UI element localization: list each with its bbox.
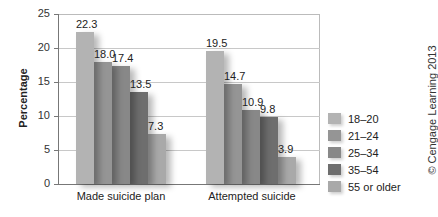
y-tick-label: 25	[30, 7, 50, 19]
value-label: 3.9	[278, 143, 308, 155]
value-label: 13.5	[130, 78, 160, 90]
bar	[260, 117, 278, 184]
value-label: 7.3	[148, 120, 178, 132]
legend-swatch	[328, 181, 341, 192]
plot-frame-top	[58, 14, 320, 15]
legend-label: 21–24	[348, 130, 379, 142]
y-tick-label: 0	[30, 177, 50, 189]
bar	[94, 62, 112, 184]
legend-item: 18–20	[328, 110, 401, 127]
bar	[278, 157, 296, 184]
legend-item: 35–54	[328, 161, 401, 178]
category-label-attempted: Attempted suicide	[192, 190, 312, 202]
bar	[224, 84, 242, 184]
bar	[206, 51, 224, 184]
y-tick-label: 15	[30, 75, 50, 87]
value-label: 19.5	[206, 37, 236, 49]
copyright-credit: © Cengage Learning 2013	[426, 40, 438, 180]
legend-item: 55 or older	[328, 178, 401, 195]
value-label: 22.3	[76, 18, 106, 30]
legend-item: 25–34	[328, 144, 401, 161]
legend-swatch	[328, 113, 341, 124]
legend: 18–2021–2425–3435–5455 or older	[328, 110, 401, 195]
legend-swatch	[328, 147, 341, 158]
bar	[148, 134, 166, 184]
plot-frame-right	[319, 14, 320, 185]
bar	[76, 32, 94, 184]
legend-label: 25–34	[348, 147, 379, 159]
legend-label: 18–20	[348, 113, 379, 125]
legend-item: 21–24	[328, 127, 401, 144]
bar	[112, 66, 130, 184]
legend-swatch	[328, 164, 341, 175]
value-label: 9.8	[260, 103, 290, 115]
y-tick-label: 10	[30, 109, 50, 121]
bar	[130, 92, 148, 184]
legend-label: 35–54	[348, 164, 379, 176]
y-axis	[58, 14, 59, 185]
y-axis-label: Percentage	[17, 63, 29, 133]
legend-label: 55 or older	[348, 181, 401, 193]
category-label-made-plan: Made suicide plan	[61, 190, 181, 202]
y-tick-label: 20	[30, 41, 50, 53]
x-axis	[58, 184, 320, 185]
y-tick-label: 5	[30, 143, 50, 155]
legend-swatch	[328, 130, 341, 141]
value-label: 14.7	[224, 70, 254, 82]
value-label: 17.4	[112, 52, 142, 64]
bar	[242, 110, 260, 184]
